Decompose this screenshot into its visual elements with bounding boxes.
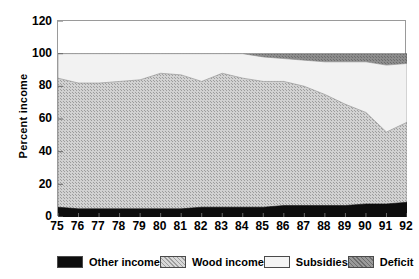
chart-legend: Other income Wood income Subsidies Defic… — [57, 252, 409, 272]
legend-item-deficit: Deficit — [348, 256, 414, 268]
legend-item-subsidies: Subsidies — [264, 256, 348, 268]
legend-label: Subsidies — [296, 256, 348, 268]
legend-item-wood-income: Wood income — [160, 256, 264, 268]
y-axis-tick-labels: 120 100 80 60 40 20 0 — [14, 0, 52, 279]
stacked-area-chart: Percent income 120 100 80 60 40 20 0 — [0, 0, 419, 279]
legend-label: Other income — [89, 256, 160, 268]
y-tick-label: 20 — [18, 177, 52, 191]
legend-label: Wood income — [192, 256, 264, 268]
legend-swatch-subsidies — [264, 256, 290, 268]
legend-swatch-wood-income — [160, 256, 186, 268]
plot-area — [57, 20, 406, 216]
legend-swatch-deficit — [348, 256, 374, 268]
y-tick-label: 120 — [18, 14, 52, 28]
y-tick-label: 40 — [18, 144, 52, 158]
x-axis-tick-labels: 757677787980818283848586878889909192 — [57, 219, 406, 237]
plot-canvas — [58, 21, 407, 217]
legend-swatch-other-income — [57, 256, 83, 268]
y-tick-label: 80 — [18, 78, 52, 92]
legend-label: Deficit — [380, 256, 414, 268]
y-tick-label: 60 — [18, 111, 52, 125]
legend-item-other-income: Other income — [57, 256, 160, 268]
x-tick-label: 92 — [391, 219, 419, 233]
y-tick-label: 100 — [18, 46, 52, 60]
series-layer — [58, 54, 407, 217]
